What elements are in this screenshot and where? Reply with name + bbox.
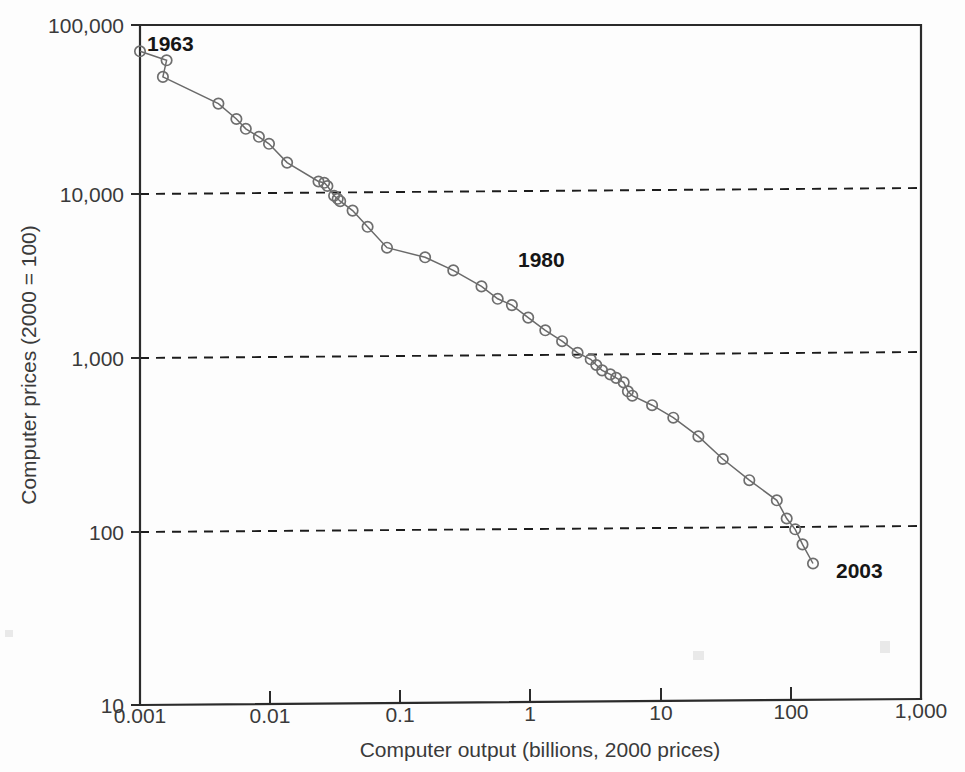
axis-frame — [140, 25, 921, 705]
annotation-2003: 2003 — [836, 559, 883, 582]
data-series — [135, 46, 818, 569]
gridline-1000 — [140, 352, 921, 358]
y-axis-title: Computer prices (2000 = 100) — [17, 225, 40, 505]
annotation-1963: 1963 — [147, 32, 194, 55]
axis-left-and-bottom — [140, 25, 921, 705]
gridline-100 — [140, 526, 921, 532]
y-tick-label-100: 100 — [89, 521, 124, 544]
paper-speck — [5, 630, 13, 637]
y-tick-label-10: 10 — [101, 694, 124, 717]
y-tick-label-1000: 1,000 — [71, 347, 124, 370]
x-tick-label-0.1: 0.1 — [385, 703, 414, 726]
chart-figure: 0.001 0.01 0.1 1 10 100 1,000 100,000 10… — [0, 0, 965, 772]
x-axis-title: Computer output (billions, 2000 prices) — [360, 738, 721, 761]
x-tick-label-1: 1 — [524, 702, 536, 725]
x-tick-label-1000: 1,000 — [895, 699, 948, 722]
y-tick-label-10000: 10,000 — [60, 183, 124, 206]
paper-speck — [693, 651, 704, 660]
annotation-1980: 1980 — [518, 248, 565, 271]
axis-right-and-top — [140, 25, 921, 699]
x-tick-label-10: 10 — [649, 701, 672, 724]
x-tick-label-0.01: 0.01 — [250, 704, 291, 727]
chart-canvas: 0.001 0.01 0.1 1 10 100 1,000 100,000 10… — [0, 0, 965, 772]
gridlines — [140, 188, 921, 532]
x-tick-label-100: 100 — [773, 700, 808, 723]
paper-speck — [880, 641, 890, 653]
gridline-10000 — [140, 188, 921, 194]
y-tick-marks — [131, 25, 140, 705]
y-tick-label-100000: 100,000 — [48, 14, 124, 37]
